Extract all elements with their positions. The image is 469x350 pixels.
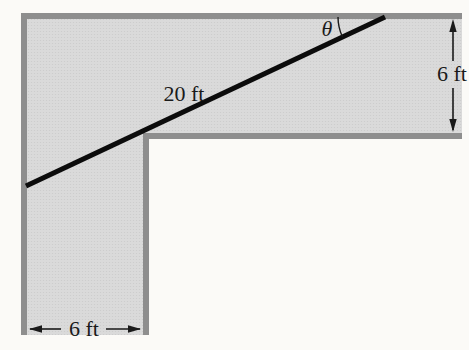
wall-top	[21, 13, 462, 19]
hallway-corner-diagram: θ 20 ft 6 ft 6 ft	[0, 0, 469, 350]
bottom-width-label: 6 ft	[69, 316, 99, 341]
ladder-length-label: 20 ft	[164, 81, 205, 106]
hallway-region-texture	[27, 19, 462, 335]
hallway-corner-figure: θ 20 ft 6 ft 6 ft	[0, 0, 469, 350]
right-width-label: 6 ft	[437, 61, 467, 86]
wall-inner-horizontal	[143, 133, 462, 139]
wall-left	[21, 13, 27, 335]
angle-theta-label: θ	[322, 16, 333, 41]
wall-inner-vertical	[143, 133, 149, 335]
